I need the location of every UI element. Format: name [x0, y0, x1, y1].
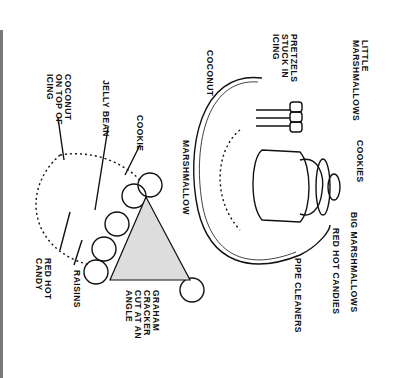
label-red-hot-candy: RED HOT CANDY — [34, 258, 52, 300]
label-pipe-cleaners: PIPE CLEANERS — [293, 258, 302, 333]
graham-cracker — [110, 197, 190, 280]
label-coconut-on-icing: COCONUT ON TOP OF ICING — [45, 74, 72, 125]
label-red-hot-candies: RED HOT CANDIES — [331, 228, 340, 314]
coconut-fuzz — [220, 130, 240, 230]
label-marshmallow: MARSHMALLOW — [181, 140, 190, 215]
label-jelly-bean: JELLY BEAN — [101, 80, 110, 137]
label-little-marshmallows: LITTLE MARSHMALLOWS — [351, 40, 369, 121]
label-graham-cracker: GRAHAM CRACKER CUT AT AN ANGLE — [124, 290, 160, 339]
label-big-marshmallows: BIG MARSHMALLOWS — [349, 212, 358, 313]
label-cookie: COOKIE — [135, 115, 144, 152]
snowman-body — [253, 150, 309, 222]
label-cookies: COOKIES — [355, 140, 364, 183]
diagram-artwork — [0, 0, 394, 378]
label-raisins: RAISINS — [72, 270, 81, 308]
label-pretzels: PRETZELS STUCK IN ICING — [271, 34, 298, 82]
snowman-head — [300, 159, 323, 215]
label-coconut: COCONUT — [205, 50, 214, 96]
